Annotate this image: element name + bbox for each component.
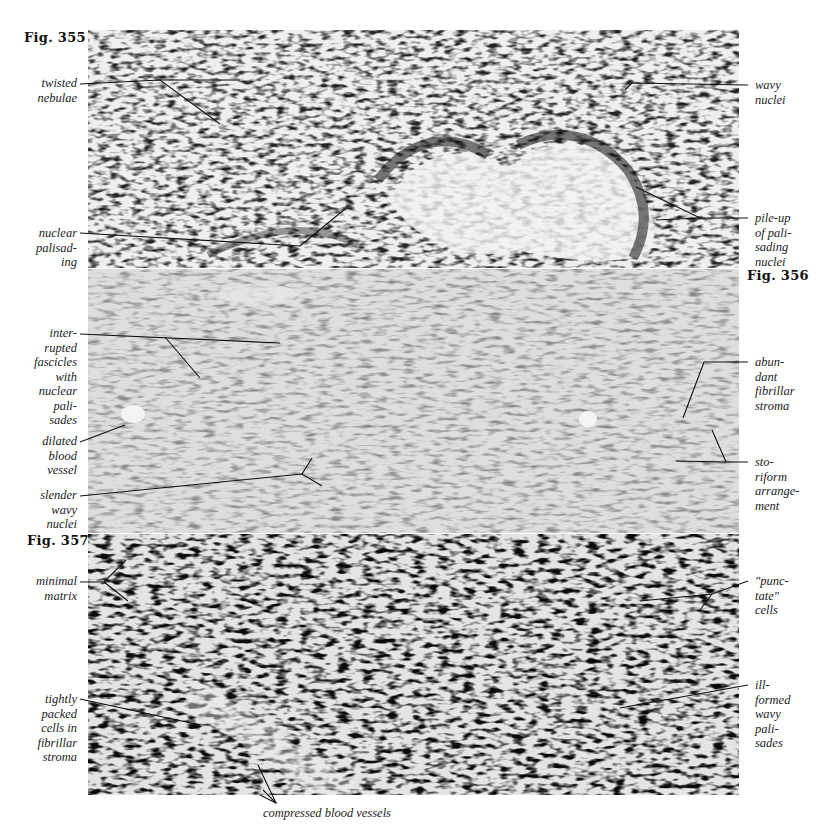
annotation-line: rupted [34, 341, 77, 356]
annotation-storiform-arrangement: sto- riform arrange- ment [755, 455, 799, 513]
annotation-line: stroma [755, 399, 795, 414]
annotation-line: sades [34, 413, 77, 428]
annotation-line: vessel [42, 463, 77, 478]
annotation-compressed-blood-vessels: compressed blood vessels [263, 806, 391, 821]
annotation-line: pali- [34, 399, 77, 414]
figure-prefix: Fig. [27, 533, 56, 548]
annotation-minimal-matrix: minimal matrix [36, 574, 77, 603]
annotation-line: fascicles [34, 355, 77, 370]
annotation-line: inter- [34, 326, 77, 341]
figure-number: 357 [61, 533, 89, 548]
annotation-line: cells [755, 603, 789, 618]
annotation-twisted-nebulae: twisted nebulae [37, 76, 77, 105]
annotation-line: with [34, 370, 77, 385]
annotation-line: ill- [755, 678, 790, 693]
annotation-line: nuclei [40, 517, 77, 532]
annotation-line: cells in [37, 721, 77, 736]
micrograph-texture-icon [88, 30, 739, 268]
micrograph-texture-icon [88, 534, 739, 795]
annotation-line: "punc- [755, 574, 789, 589]
figure-number: 356 [781, 268, 809, 283]
annotation-line: ment [755, 499, 799, 514]
annotation-line: pali- [755, 722, 790, 737]
annotation-line: of pali- [755, 226, 791, 241]
annotation-interrupted-fascicles: inter- rupted fascicles with nuclear pal… [34, 326, 77, 428]
annotation-line: sades [755, 736, 790, 751]
annotation-line: fibrillar [37, 736, 77, 751]
figure-label-357: Fig. 357 [27, 533, 89, 548]
annotation-line: minimal [36, 574, 77, 589]
annotation-line: tightly [37, 692, 77, 707]
annotation-line: slender [40, 488, 77, 503]
annotation-wavy-nuclei: wavy nuclei [755, 78, 786, 107]
annotation-nuclear-palisading: nuclear palisad- ing [36, 226, 77, 270]
annotation-line: wavy [755, 707, 790, 722]
annotation-line: wavy [40, 503, 77, 518]
annotation-line: arrange- [755, 484, 799, 499]
micrograph-panel-356 [88, 269, 739, 533]
micrograph-texture-icon [88, 269, 739, 533]
annotation-line: packed [37, 707, 77, 722]
figure-label-355: Fig. 355 [24, 30, 86, 45]
annotation-line: nuclear [34, 384, 77, 399]
figure-prefix: Fig. [24, 30, 53, 45]
annotation-line: palisad- [36, 241, 77, 256]
annotation-line: twisted [37, 76, 77, 91]
annotation-line: pile-up [755, 211, 791, 226]
annotation-dilated-blood-vessel: dilated blood vessel [42, 434, 77, 478]
figure-number: 355 [58, 30, 86, 45]
micrograph-panel-357 [88, 534, 739, 795]
annotation-slender-wavy-nuclei: slender wavy nuclei [40, 488, 77, 532]
micrograph-panel-355 [88, 30, 739, 268]
annotation-punctate-cells: "punc- tate" cells [755, 574, 789, 618]
annotation-line: nebulae [37, 91, 77, 106]
annotation-line: riform [755, 470, 799, 485]
annotation-line: dilated [42, 434, 77, 449]
annotation-tightly-packed-cells: tightly packed cells in fibrillar stroma [37, 692, 77, 765]
figure-prefix: Fig. [747, 268, 776, 283]
annotation-abundant-fibrillar-stroma: abun- dant fibrillar stroma [755, 355, 795, 413]
annotation-line: tate" [755, 589, 789, 604]
annotation-line: nuclear [36, 226, 77, 241]
annotation-line: sto- [755, 455, 799, 470]
annotation-ill-formed-wavy-palisades: ill- formed wavy pali- sades [755, 678, 790, 751]
annotation-pile-up-palisading-nuclei: pile-up of pali- sading nuclei [755, 211, 791, 269]
annotation-line: matrix [36, 589, 77, 604]
annotation-line: nuclei [755, 93, 786, 108]
annotation-line: abun- [755, 355, 795, 370]
annotation-line: stroma [37, 750, 77, 765]
annotation-line: sading [755, 240, 791, 255]
annotation-line: dant [755, 370, 795, 385]
annotation-line: nuclei [755, 255, 791, 270]
annotation-line: ing [36, 255, 77, 270]
figure-label-356: Fig. 356 [747, 268, 809, 283]
annotation-line: wavy [755, 78, 786, 93]
annotation-line: fibrillar [755, 384, 795, 399]
annotation-line: formed [755, 693, 790, 708]
annotation-line: blood [42, 449, 77, 464]
